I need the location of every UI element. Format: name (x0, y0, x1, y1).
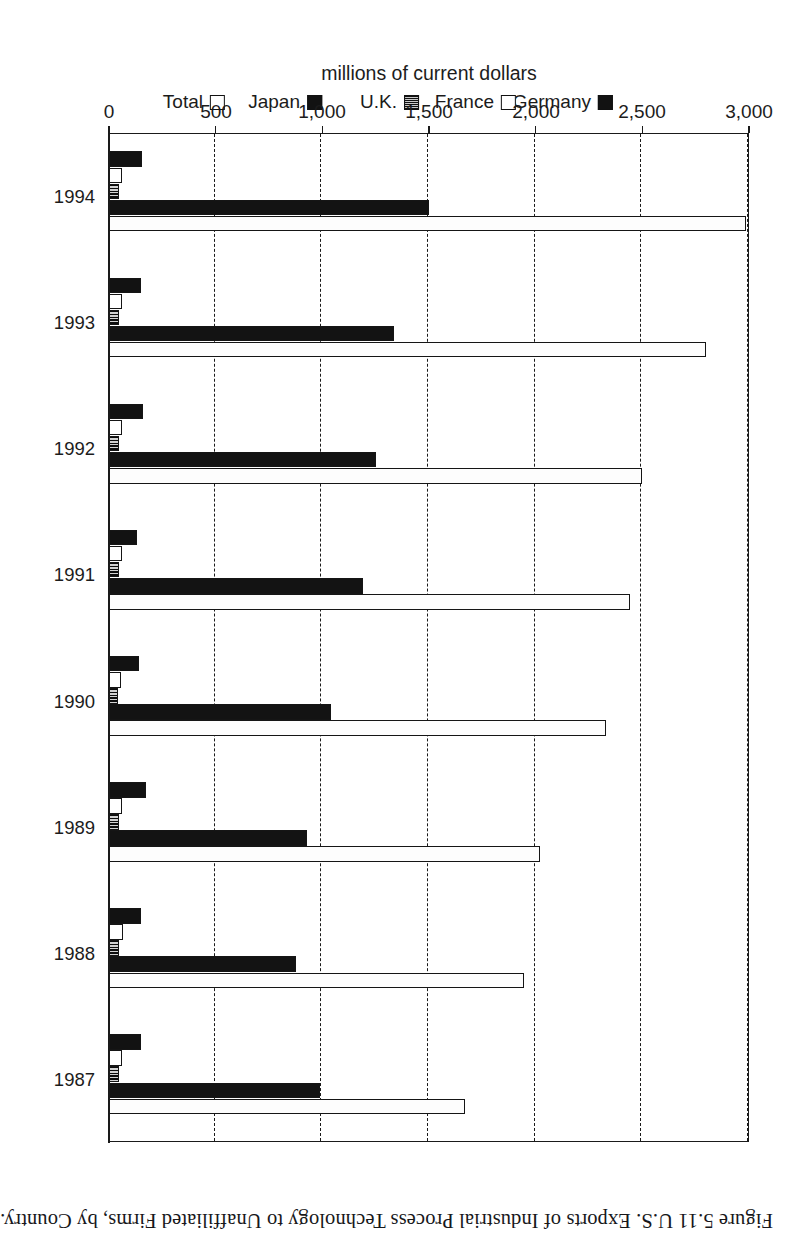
value-tick-label-1500: 1,500 (403, 101, 455, 123)
year-tick-label-1991: 1991 (54, 564, 95, 586)
bar-group-1991 (109, 529, 749, 610)
bar-japan-1987 (109, 1083, 320, 1099)
bar-uk-1990 (109, 688, 118, 704)
value-tick-mark (108, 126, 110, 133)
year-tick-label-1994: 1994 (54, 186, 95, 208)
bar-germany-1988 (109, 908, 141, 924)
value-tick-label-2500: 2,500 (616, 101, 668, 123)
bar-group-1987 (109, 1034, 749, 1115)
bar-total-1989 (109, 846, 540, 862)
bar-uk-1993 (109, 310, 119, 326)
value-tick-mark (215, 126, 217, 133)
bar-germany-1989 (109, 782, 146, 798)
figure-title: U.S. Exports of Industrial Process Techn… (0, 1210, 673, 1232)
bar-uk-1994 (109, 184, 119, 200)
bar-group-1992 (109, 403, 749, 484)
value-tick-mark (535, 126, 537, 133)
value-axis-line (108, 131, 110, 1143)
bar-group-1988 (109, 908, 749, 989)
value-tick-label-1000: 1,000 (296, 101, 348, 123)
bar-total-1987 (109, 1099, 465, 1115)
bar-japan-1993 (109, 326, 394, 342)
value-tick-label-0: 0 (83, 101, 135, 123)
bar-total-1991 (109, 594, 630, 610)
year-tick-label-1989: 1989 (54, 817, 95, 839)
bar-group-1989 (109, 781, 749, 862)
bar-france-1989 (109, 798, 122, 814)
year-tick-label-1990: 1990 (54, 691, 95, 713)
bar-total-1993 (109, 342, 706, 358)
bar-japan-1988 (109, 956, 296, 972)
scanned-figure-page: Figure 5.11 U.S. Exports of Industrial P… (0, 0, 809, 1248)
bar-germany-1992 (109, 404, 143, 420)
value-axis-title: millions of current dollars (319, 62, 539, 85)
value-tick-mark (322, 126, 324, 133)
figure-number: Figure 5.11 (678, 1210, 773, 1232)
bar-germany-1990 (109, 656, 139, 672)
bar-germany-1991 (109, 530, 137, 546)
bar-uk-1987 (109, 1067, 119, 1083)
bar-group-1994 (109, 151, 749, 232)
year-tick-label-1992: 1992 (54, 438, 95, 460)
bar-germany-1994 (109, 151, 142, 167)
bar-japan-1991 (109, 578, 363, 594)
bar-total-1988 (109, 973, 524, 989)
bar-france-1990 (109, 672, 121, 688)
legend-item-label: U.K. (360, 91, 397, 113)
value-tick-label-500: 500 (190, 101, 242, 123)
bar-france-1993 (109, 294, 122, 310)
value-tick-mark (428, 126, 430, 133)
bar-total-1990 (109, 720, 606, 736)
legend-item-label: Japan (248, 91, 300, 113)
bar-france-1988 (109, 924, 123, 940)
bar-uk-1989 (109, 814, 119, 830)
bar-uk-1992 (109, 436, 119, 452)
year-tick-label-1987: 1987 (54, 1069, 95, 1091)
figure-caption: Figure 5.11 U.S. Exports of Industrial P… (38, 1209, 773, 1232)
bar-germany-1987 (109, 1034, 141, 1050)
bar-group-1993 (109, 277, 749, 358)
bar-uk-1991 (109, 562, 119, 578)
plot-area (109, 133, 749, 1142)
bar-germany-1993 (109, 278, 141, 294)
value-tick-label-3000: 3,000 (723, 101, 775, 123)
year-tick-label-1988: 1988 (54, 943, 95, 965)
year-tick-label-1993: 1993 (54, 312, 95, 334)
value-tick-label-2000: 2,000 (510, 101, 562, 123)
bar-japan-1989 (109, 830, 307, 846)
bar-france-1987 (109, 1050, 122, 1066)
bar-total-1994 (109, 216, 746, 232)
bar-total-1992 (109, 468, 642, 484)
value-tick-mark (642, 126, 644, 133)
bar-uk-1988 (109, 940, 119, 956)
bar-france-1991 (109, 546, 122, 562)
bar-japan-1992 (109, 452, 376, 468)
bar-japan-1990 (109, 704, 331, 720)
legend-swatch-icon (598, 95, 613, 110)
bar-france-1994 (109, 168, 122, 184)
value-tick-mark (748, 126, 750, 133)
bar-japan-1994 (109, 200, 429, 216)
bar-group-1990 (109, 655, 749, 736)
bar-france-1992 (109, 420, 122, 436)
